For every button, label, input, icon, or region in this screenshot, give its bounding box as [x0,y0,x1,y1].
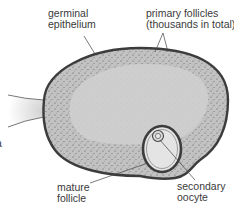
label-primary-follicles: primary follicles (thousands in total) [146,8,234,30]
ovarian-ligament [8,95,44,127]
label-line: oocyte [177,192,225,203]
label-line: follicle [57,193,90,204]
leader-germinal-epithelium [84,36,95,54]
label-germinal-epithelium: germinal epithelium [48,8,96,30]
label-secondary-oocyte: secondary oocyte [177,181,225,203]
label-clipped-left: a [0,138,2,149]
label-line: (thousands in total) [146,19,234,30]
secondary-oocyte [153,131,164,142]
label-mature-follicle: mature follicle [57,182,90,204]
label-line: epithelium [48,19,96,30]
ovary-diagram [0,0,234,209]
ovary-body [43,48,228,179]
